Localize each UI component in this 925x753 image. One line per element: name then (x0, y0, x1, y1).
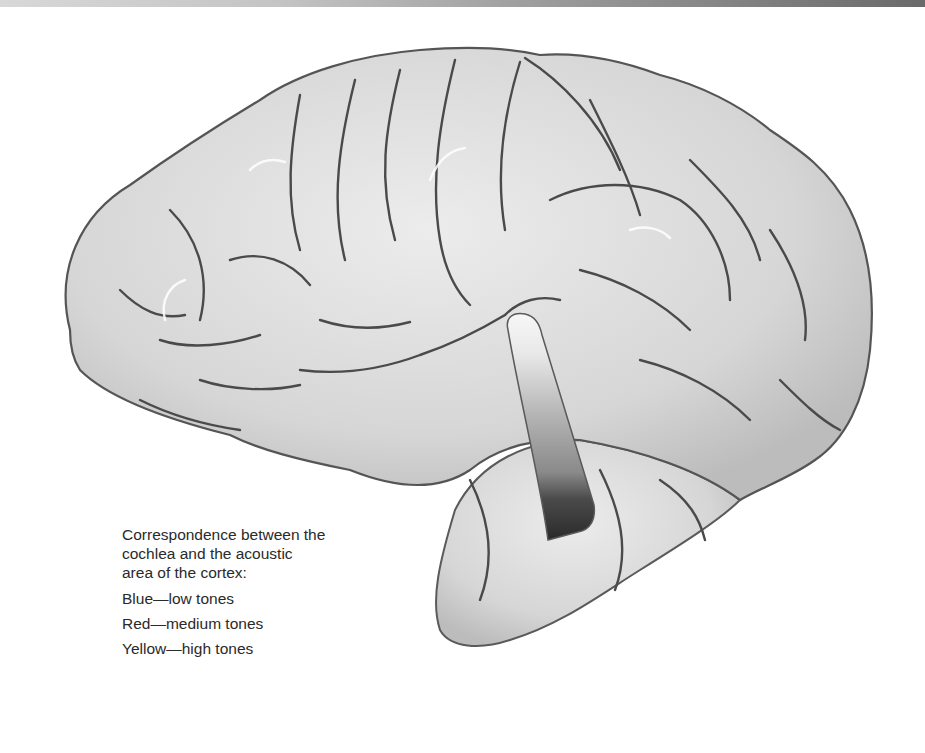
caption-line-1: Correspondence between the (122, 526, 325, 543)
legend-item-blue: Blue—low tones (122, 589, 372, 608)
figure-caption: Correspondence between the cochlea and t… (122, 525, 372, 664)
caption-intro: Correspondence between the cochlea and t… (122, 525, 372, 582)
caption-line-3: area of the cortex: (122, 564, 247, 581)
caption-line-2: cochlea and the acoustic (122, 545, 293, 562)
cerebrum-outline (66, 48, 872, 500)
legend-item-yellow: Yellow—high tones (122, 639, 372, 658)
legend-item-red: Red—medium tones (122, 614, 372, 633)
